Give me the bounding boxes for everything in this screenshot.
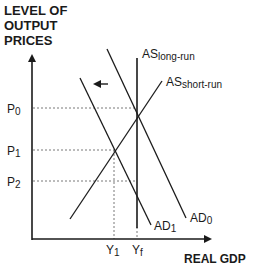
label-ad1: AD1 <box>154 219 177 234</box>
label-as-short-run: ASshort-run <box>166 75 222 90</box>
label-p1: P1 <box>7 144 21 159</box>
label-yf: Yf <box>132 243 143 258</box>
as-short-run-curve <box>70 81 162 219</box>
label-p2: P2 <box>7 175 21 190</box>
label-y1: Y1 <box>106 243 120 258</box>
label-as-long-run: ASlong-run <box>142 47 195 62</box>
ad-as-diagram: P0 P1 P2 Y1 Yf ASlong-run ASshort-run AD… <box>0 0 256 275</box>
label-ad0: AD0 <box>190 211 213 226</box>
label-p0: P0 <box>7 102 21 117</box>
